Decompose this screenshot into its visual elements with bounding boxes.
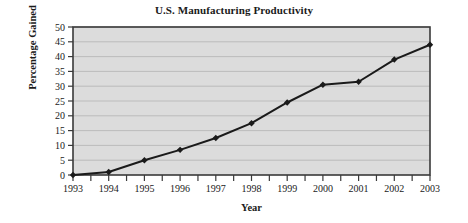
- x-tick-label: 1998: [242, 183, 262, 194]
- x-tick-label: 1996: [170, 183, 190, 194]
- x-tick-label: 1995: [134, 183, 154, 194]
- x-tick-label: 1993: [63, 183, 83, 194]
- y-tick-label: 40: [55, 51, 65, 62]
- x-tick-label: 1997: [206, 183, 226, 194]
- y-tick-label: 10: [55, 140, 65, 151]
- y-tick-label: 35: [55, 66, 65, 77]
- x-tick-label: 2000: [313, 183, 333, 194]
- y-tick-label: 50: [55, 22, 65, 33]
- plot-area: 05101520253035404550 1993199419951996199…: [0, 0, 468, 223]
- y-tick-label: 15: [55, 125, 65, 136]
- x-tick-label: 1994: [99, 183, 119, 194]
- chart-figure: U.S. Manufacturing Productivity Percenta…: [0, 0, 468, 223]
- y-tick-label: 20: [55, 110, 65, 121]
- y-tick-label: 45: [55, 36, 65, 47]
- y-tick-label: 5: [60, 155, 65, 166]
- x-tick-label: 2001: [349, 183, 369, 194]
- y-tick-label: 30: [55, 81, 65, 92]
- x-tick-label: 2002: [384, 183, 404, 194]
- x-axis-title: Year: [73, 202, 430, 213]
- x-axis-ticks: 1993199419951996199719981999200020012002…: [63, 175, 440, 194]
- y-axis-ticks: 05101520253035404550: [55, 22, 73, 181]
- y-tick-label: 0: [60, 170, 65, 181]
- y-tick-label: 25: [55, 96, 65, 107]
- x-tick-label: 1999: [277, 183, 297, 194]
- x-tick-label: 2003: [420, 183, 440, 194]
